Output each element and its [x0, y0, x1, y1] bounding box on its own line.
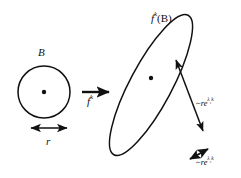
label-image-fk-B: fk(B) — [151, 13, 172, 24]
ellipse-fk-B-center-dot — [149, 76, 153, 80]
label-ball-B: B — [38, 47, 45, 58]
label-contracting-rate: ~reλ2k — [196, 158, 214, 167]
label-map-exponent: k — [90, 93, 93, 100]
label-expanding-exponent: λ1k — [207, 96, 213, 102]
label-expanding-rate: ~reλ1k — [196, 99, 214, 108]
label-expanding-k: k — [211, 96, 213, 102]
ellipse-fk-B — [95, 5, 206, 164]
figure-canvas: B r fk fk(B) ~reλ1k ~reλ2k — [0, 0, 241, 178]
label-contracting-exponent: λ2k — [207, 155, 213, 161]
label-contracting-k: k — [211, 155, 213, 161]
label-image-exponent: k — [154, 10, 157, 17]
major-axis-double-arrow — [176, 60, 203, 131]
label-expanding-index: 1 — [210, 101, 212, 105]
label-radius-r: r — [46, 136, 50, 147]
label-image-argument: (B) — [157, 12, 172, 24]
figure-vector-graphics — [0, 0, 241, 178]
label-contracting-index: 2 — [210, 160, 212, 164]
circle-B-center-dot — [42, 90, 46, 94]
label-map-fk: fk — [87, 96, 93, 107]
